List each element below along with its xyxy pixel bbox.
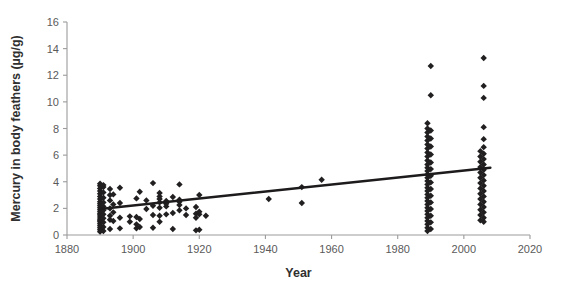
data-point — [133, 195, 139, 201]
data-point — [203, 212, 209, 218]
chart-canvas: 0246810121416 18801900192019401960198020… — [0, 0, 576, 287]
x-tick-label: 1980 — [385, 243, 409, 255]
y-tick-label: 10 — [47, 96, 59, 108]
data-point — [117, 214, 123, 220]
data-point — [193, 204, 199, 210]
data-point — [156, 212, 162, 218]
x-tick-label: 1920 — [187, 243, 211, 255]
data-point — [107, 226, 113, 232]
data-point — [150, 212, 156, 218]
data-point — [481, 83, 487, 89]
data-point — [170, 226, 176, 232]
y-tick-label: 8 — [53, 123, 59, 135]
x-tick-label: 1960 — [319, 243, 343, 255]
data-point — [481, 136, 487, 142]
data-point — [117, 185, 123, 191]
data-point — [176, 181, 182, 187]
data-point — [150, 180, 156, 186]
x-axis-title: Year — [285, 266, 312, 280]
data-point — [428, 92, 434, 98]
x-tick-label: 2000 — [452, 243, 476, 255]
data-point — [481, 124, 487, 130]
data-point — [117, 200, 123, 206]
y-tick-label: 2 — [53, 202, 59, 214]
y-tick-label: 0 — [53, 229, 59, 241]
data-point — [481, 95, 487, 101]
data-point — [299, 200, 305, 206]
y-tick-label: 6 — [53, 149, 59, 161]
x-tick-label: 1880 — [55, 243, 79, 255]
y-tick-label: 16 — [47, 16, 59, 28]
data-point — [117, 225, 123, 231]
x-axis-ticks: 18801900192019401960198020002020 — [55, 235, 542, 255]
data-point — [428, 63, 434, 69]
data-point — [170, 210, 176, 216]
data-point — [318, 177, 324, 183]
mercury-scatter-figure: 0246810121416 18801900192019401960198020… — [0, 0, 576, 287]
data-point — [137, 189, 143, 195]
data-point — [424, 120, 430, 126]
y-tick-label: 14 — [47, 43, 59, 55]
data-point — [183, 212, 189, 218]
data-point — [127, 213, 133, 219]
x-tick-label: 1900 — [121, 243, 145, 255]
y-tick-label: 4 — [53, 176, 59, 188]
data-point — [163, 211, 169, 217]
data-point — [481, 55, 487, 61]
x-tick-label: 2020 — [518, 243, 542, 255]
data-point — [156, 218, 162, 224]
y-axis-title: Mercury in body feathers (µg/g) — [9, 35, 23, 221]
y-axis-ticks: 0246810121416 — [47, 16, 67, 241]
data-point — [170, 194, 176, 200]
scatter-points — [97, 55, 487, 235]
data-point — [183, 205, 189, 211]
data-point — [143, 206, 149, 212]
data-point — [266, 196, 272, 202]
x-tick-label: 1940 — [253, 243, 277, 255]
data-point — [156, 190, 162, 196]
y-tick-label: 12 — [47, 69, 59, 81]
data-point — [107, 186, 113, 192]
data-point — [150, 224, 156, 230]
